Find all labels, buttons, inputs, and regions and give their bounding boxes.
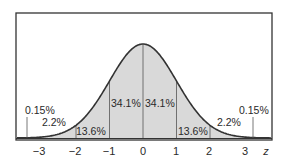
tick-label-minus1: −1 — [103, 145, 116, 157]
x-axis-label: z — [262, 145, 269, 157]
tick-label-0: 0 — [140, 145, 146, 157]
normal-distribution-chart: 0.15% 2.2% 13.6% 34.1% 34.1% 13.6% 2.2% … — [0, 0, 284, 161]
tick-label-3: 3 — [242, 145, 248, 157]
region-label-left-tail: 0.15% — [25, 104, 55, 116]
tick-label-1: 1 — [173, 145, 179, 157]
tick-label-minus2: −2 — [69, 145, 82, 157]
region-label-minus2-minus1: 13.6% — [76, 125, 106, 137]
region-label-2-3: 2.2% — [217, 116, 241, 128]
x-axis-ticks: −3 −2 −1 0 1 2 3 z — [33, 145, 270, 157]
region-label-0-1: 34.1% — [145, 97, 175, 109]
region-label-1-2: 13.6% — [178, 125, 208, 137]
region-label-minus1-0: 34.1% — [111, 97, 141, 109]
tick-label-2: 2 — [206, 145, 212, 157]
region-label-right-tail: 0.15% — [239, 104, 269, 116]
tick-label-minus3: −3 — [33, 145, 46, 157]
region-label-minus3-minus2: 2.2% — [42, 116, 66, 128]
